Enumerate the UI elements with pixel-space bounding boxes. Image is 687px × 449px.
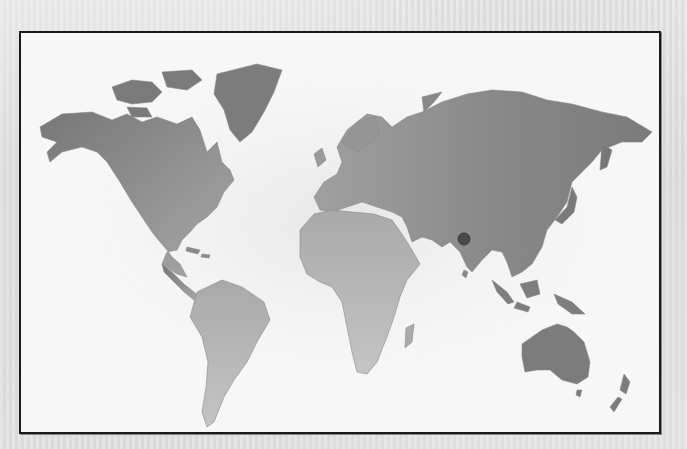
tasmania xyxy=(576,390,582,397)
new-zealand xyxy=(610,374,630,412)
world-map xyxy=(21,33,659,432)
world-map-frame xyxy=(19,31,661,434)
location-marker[interactable] xyxy=(458,233,470,245)
